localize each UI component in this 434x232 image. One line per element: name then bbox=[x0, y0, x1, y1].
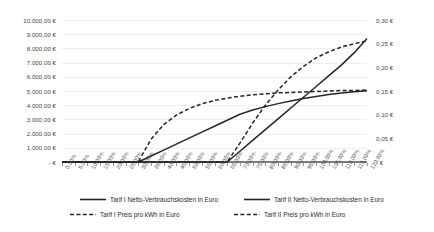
y-axis-tick-label: 8.000,00 € bbox=[0, 45, 56, 52]
x-axis-tickmark bbox=[100, 163, 101, 166]
x-axis-tickmark bbox=[113, 163, 114, 166]
x-axis-tickmark bbox=[215, 163, 216, 166]
x-axis-tickmark bbox=[176, 163, 177, 166]
y-axis-tick-label: 9.000,00 € bbox=[0, 31, 56, 38]
x-axis-tickmark bbox=[354, 163, 355, 166]
x-axis-tickmark bbox=[342, 163, 343, 166]
y2-axis-tick-label: 0,10 € bbox=[376, 111, 424, 118]
x-axis-tickmark bbox=[265, 163, 266, 166]
y2-axis-tick-label: 0,05 € bbox=[376, 135, 424, 142]
y-axis-tick-label: 10.000,00 € bbox=[0, 17, 56, 24]
x-axis-tickmark bbox=[291, 163, 292, 166]
solid-line-icon bbox=[80, 196, 106, 203]
y-axis-tick-label: 7.000,00 € bbox=[0, 59, 56, 66]
x-axis-tickmark bbox=[138, 163, 139, 166]
legend-label: Tarif I Netto-Verbrauchskosten in Euro bbox=[110, 196, 218, 203]
chart-container: - €1.000,00 €2.000,00 €3.000,00 €4.000,0… bbox=[0, 0, 434, 232]
y2-axis-tick-label: 0,20 € bbox=[376, 64, 424, 71]
legend-item[interactable]: Tarif II Preis pro kWh in Euro bbox=[234, 211, 345, 218]
chart-legend: Tarif I Netto-Verbrauchskosten in EuroTa… bbox=[62, 196, 392, 228]
legend-item[interactable]: Tarif I Netto-Verbrauchskosten in Euro bbox=[80, 196, 218, 203]
x-axis-tickmark bbox=[329, 163, 330, 166]
y-axis-tick-label: 1.000,00 € bbox=[0, 144, 56, 151]
x-axis-tickmark bbox=[227, 163, 228, 166]
series-line bbox=[62, 38, 367, 162]
x-axis-tickmark bbox=[75, 163, 76, 166]
x-axis-tickmark bbox=[62, 163, 63, 166]
y2-axis-tick-label: - € bbox=[376, 159, 424, 166]
y2-axis-tick-label: 0,15 € bbox=[376, 88, 424, 95]
series-line bbox=[62, 41, 367, 162]
y-axis-tick-label: 5.000,00 € bbox=[0, 88, 56, 95]
x-axis-tickmark bbox=[126, 163, 127, 166]
x-axis-tickmark bbox=[278, 163, 279, 166]
y2-axis-tick-label: 0,30 € bbox=[376, 17, 424, 24]
dashed-line-icon bbox=[234, 211, 260, 218]
x-axis-tickmark bbox=[189, 163, 190, 166]
x-axis-tickmark bbox=[164, 163, 165, 166]
dashed-line-icon bbox=[70, 211, 96, 218]
y-axis-tick-label: - € bbox=[0, 159, 56, 166]
legend-label: Tarif II Preis pro kWh in Euro bbox=[264, 211, 345, 218]
y-axis-tick-label: 3.000,00 € bbox=[0, 116, 56, 123]
legend-item[interactable]: Tarif I Preis pro kWh in Euro bbox=[70, 211, 180, 218]
y2-axis-tick-label: 0,25 € bbox=[376, 40, 424, 47]
series-lines bbox=[62, 20, 367, 162]
x-axis-tickmark bbox=[151, 163, 152, 166]
legend-label: Tarif II Netto-Verbrauchskosten in Euro bbox=[274, 196, 384, 203]
x-axis-tickmark bbox=[367, 163, 368, 166]
legend-label: Tarif I Preis pro kWh in Euro bbox=[100, 211, 180, 218]
y-axis-tick-label: 6.000,00 € bbox=[0, 73, 56, 80]
solid-line-icon bbox=[244, 196, 270, 203]
x-axis-tickmark bbox=[240, 163, 241, 166]
plot-area bbox=[62, 20, 367, 162]
y-axis-tick-label: 2.000,00 € bbox=[0, 130, 56, 137]
legend-item[interactable]: Tarif II Netto-Verbrauchskosten in Euro bbox=[244, 196, 384, 203]
y-axis-tick-label: 4.000,00 € bbox=[0, 102, 56, 109]
x-axis-tickmark bbox=[87, 163, 88, 166]
x-axis-tickmark bbox=[303, 163, 304, 166]
x-axis-tickmark bbox=[253, 163, 254, 166]
x-axis-tickmark bbox=[202, 163, 203, 166]
x-axis-tickmark bbox=[316, 163, 317, 166]
